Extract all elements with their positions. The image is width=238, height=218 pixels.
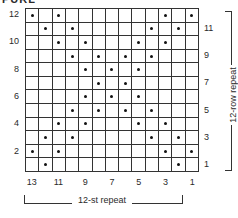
chart-cell <box>106 118 119 132</box>
chart-cell <box>186 63 199 77</box>
chart-cell <box>39 145 52 159</box>
column-number: 1 <box>185 177 199 187</box>
chart-cell <box>66 77 79 91</box>
chart-cell <box>79 118 92 132</box>
chart-cell <box>159 118 172 132</box>
chart-cell <box>172 9 185 23</box>
chart-cell <box>186 145 199 159</box>
chart-cell <box>159 63 172 77</box>
chart-cell <box>66 23 79 37</box>
chart-cell <box>26 104 39 118</box>
chart-cell <box>106 9 119 23</box>
chart-cell <box>132 23 145 37</box>
chart-cell <box>39 90 52 104</box>
chart-cell <box>159 9 172 23</box>
row-number: 9 <box>204 50 209 60</box>
chart-cell <box>79 9 92 23</box>
chart-cell <box>26 158 39 172</box>
chart-cell <box>119 158 132 172</box>
chart-cell <box>79 23 92 37</box>
chart-cell <box>66 158 79 172</box>
chart-cell <box>119 50 132 64</box>
chart-cell <box>159 104 172 118</box>
chart-cell <box>53 63 66 77</box>
chart-cell <box>93 131 106 145</box>
chart-cell <box>159 77 172 91</box>
chart-cell <box>119 145 132 159</box>
chart-cell <box>26 77 39 91</box>
chart-cell <box>146 50 159 64</box>
chart-cell <box>106 77 119 91</box>
chart-cell <box>106 145 119 159</box>
chart-cell <box>172 77 185 91</box>
chart-cell <box>172 118 185 132</box>
chart-cell <box>159 158 172 172</box>
chart-cell <box>79 77 92 91</box>
chart-cell <box>79 158 92 172</box>
chart-cell <box>39 23 52 37</box>
chart-cell <box>172 50 185 64</box>
chart-cell <box>172 131 185 145</box>
stitch-repeat-label: 12-st repeat <box>72 195 132 205</box>
chart-cell <box>146 9 159 23</box>
column-number: 3 <box>159 177 173 187</box>
chart-cell <box>146 158 159 172</box>
chart-cell <box>159 131 172 145</box>
chart-cell <box>132 131 145 145</box>
chart-cell <box>79 104 92 118</box>
column-number: 11 <box>51 177 65 187</box>
chart-cell <box>79 145 92 159</box>
chart-cell <box>172 104 185 118</box>
chart-cell <box>119 36 132 50</box>
chart-cell <box>106 90 119 104</box>
chart-cell <box>93 118 106 132</box>
chart-cell <box>93 145 106 159</box>
chart-title: PURL <box>2 0 36 5</box>
chart-cell <box>26 63 39 77</box>
chart-cell <box>53 131 66 145</box>
chart-cell <box>66 9 79 23</box>
chart-cell <box>172 145 185 159</box>
chart-cell <box>53 50 66 64</box>
row-number: 3 <box>204 132 209 142</box>
chart-cell <box>26 36 39 50</box>
chart-cell <box>146 118 159 132</box>
row-number: 11 <box>204 23 213 33</box>
chart-cell <box>172 23 185 37</box>
chart-cell <box>172 63 185 77</box>
chart-cell <box>146 77 159 91</box>
chart-cell <box>53 36 66 50</box>
chart-cell <box>66 63 79 77</box>
chart-cell <box>172 158 185 172</box>
chart-cell <box>172 90 185 104</box>
chart-cell <box>186 50 199 64</box>
chart-cell <box>132 104 145 118</box>
chart-cell <box>39 118 52 132</box>
chart-cell <box>53 158 66 172</box>
chart-cell <box>172 36 185 50</box>
row-number: 5 <box>204 105 209 115</box>
chart-cell <box>39 131 52 145</box>
chart-cell <box>53 90 66 104</box>
chart-cell <box>119 23 132 37</box>
chart-cell <box>146 63 159 77</box>
chart-cell <box>53 118 66 132</box>
chart-cell <box>186 36 199 50</box>
chart-cell <box>93 77 106 91</box>
chart-cell <box>119 9 132 23</box>
chart-cell <box>66 50 79 64</box>
chart-cell <box>119 77 132 91</box>
chart-cell <box>53 104 66 118</box>
chart-cell <box>146 145 159 159</box>
chart-cell <box>53 77 66 91</box>
chart-cell <box>93 90 106 104</box>
chart-cell <box>26 131 39 145</box>
row-number: 2 <box>5 146 19 156</box>
chart-cell <box>106 158 119 172</box>
chart-cell <box>26 23 39 37</box>
chart-cell <box>186 90 199 104</box>
chart-cell <box>132 158 145 172</box>
chart-cell <box>119 90 132 104</box>
chart-cell <box>93 36 106 50</box>
column-number: 7 <box>105 177 119 187</box>
